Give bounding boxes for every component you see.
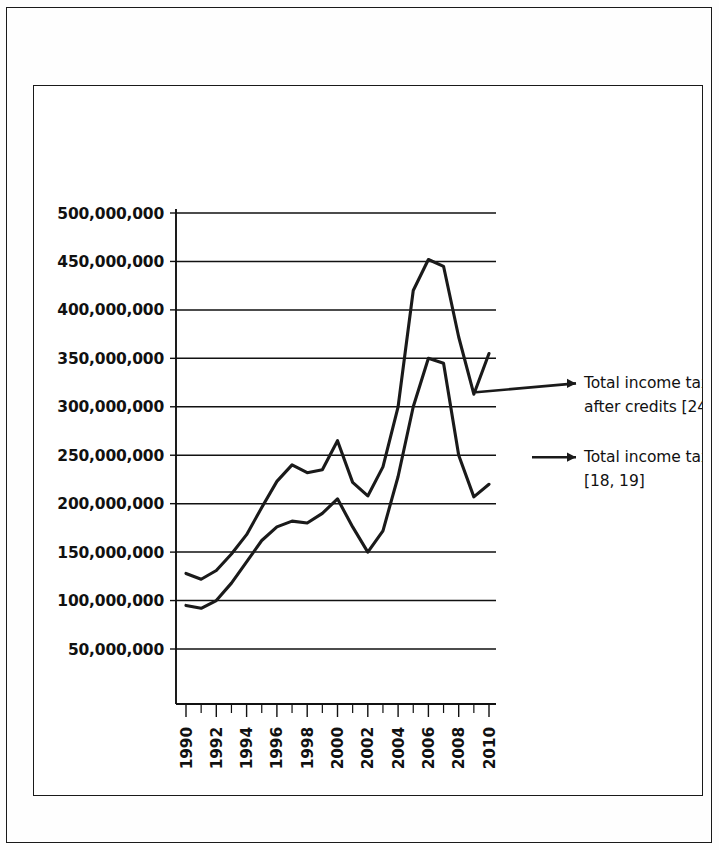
y-axis-tick-label: 200,000,000	[57, 495, 164, 513]
data-series-group	[186, 260, 489, 609]
y-axis-tick-label: 450,000,000	[57, 253, 164, 271]
x-axis-tick-label: 1992	[208, 727, 226, 769]
x-axis-tick-label: 2008	[450, 727, 468, 769]
y-axis-tick-label: 150,000,000	[57, 544, 164, 562]
y-gridlines	[176, 213, 496, 649]
series-line-total-income-tax-after-credits	[186, 260, 489, 580]
callout-series-0-arrowhead	[567, 379, 576, 388]
y-axis-tick-label: 300,000,000	[57, 398, 164, 416]
y-axis-tick-label: 400,000,000	[57, 301, 164, 319]
y-axis-tick-label: 100,000,000	[57, 592, 164, 610]
line-chart: 500,000,000450,000,000400,000,000350,000…	[34, 86, 702, 795]
y-axis-tick-label: 350,000,000	[57, 350, 164, 368]
callout-series-0	[476, 383, 576, 392]
series-line-total-income-tax	[186, 358, 489, 608]
x-axis-tick-label: 2000	[329, 727, 347, 770]
x-axis-tick-label: 1996	[268, 727, 286, 769]
legend-label-0-line1: Total income tax	[583, 374, 702, 392]
legend-label-1-line2: [18, 19]	[584, 472, 645, 490]
page-canvas: 500,000,000450,000,000400,000,000350,000…	[0, 0, 719, 850]
x-axis-tick-label: 1990	[178, 727, 196, 770]
x-axis-labels: 1990199219941996199820002002200420062008…	[178, 727, 499, 770]
x-axis-tick-label: 2004	[390, 727, 408, 770]
x-axis-tick-label: 2010	[481, 727, 499, 770]
y-axis-labels: 500,000,000450,000,000400,000,000350,000…	[57, 205, 164, 659]
x-tick-marks	[186, 704, 489, 717]
x-axis-tick-label: 2006	[420, 727, 438, 769]
chart-container: 500,000,000450,000,000400,000,000350,000…	[33, 85, 703, 796]
legend: Total income tax after credits [24] Tota…	[583, 374, 702, 490]
y-axis-tick-label: 50,000,000	[68, 641, 164, 659]
legend-label-1-line1: Total income tax	[583, 448, 702, 466]
callout-series-1-arrowhead	[567, 453, 576, 462]
legend-label-0-line2: after credits [24]	[584, 398, 702, 416]
x-axis-tick-label: 1998	[299, 727, 317, 769]
y-axis-tick-label: 250,000,000	[57, 447, 164, 465]
y-axis-tick-label: 500,000,000	[57, 205, 164, 223]
x-axis-tick-label: 1994	[238, 727, 256, 770]
legend-callout-lines	[476, 379, 576, 462]
x-axis-tick-label: 2002	[359, 727, 377, 769]
